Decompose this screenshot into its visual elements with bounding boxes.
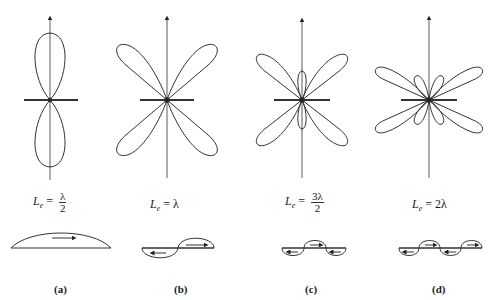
equals-sign: =	[163, 197, 170, 211]
length-value: 2λ	[435, 197, 447, 211]
pattern-c	[256, 20, 347, 178]
denominator: 2	[315, 203, 321, 214]
caption-a: (a)	[54, 283, 67, 295]
radiation-pattern-figure	[0, 0, 497, 300]
length-value: λ	[173, 197, 179, 211]
caption-c: (c)	[305, 283, 317, 295]
label-subscript: e	[419, 204, 423, 213]
label-L: L	[285, 194, 292, 208]
fraction: λ2	[59, 191, 66, 214]
current-d	[399, 241, 482, 256]
length-label-d: Le = 2λ	[412, 197, 447, 213]
pattern-a	[24, 18, 78, 180]
length-label-c: Le = 3λ2	[285, 191, 324, 214]
current-b	[142, 238, 214, 258]
label-L: L	[33, 194, 40, 208]
pattern-d	[375, 18, 482, 178]
label-subscript: e	[292, 201, 296, 210]
equals-sign: =	[298, 194, 305, 208]
length-label-a: Le = λ2	[33, 191, 66, 214]
pattern-b	[117, 18, 218, 178]
caption-b: (b)	[174, 283, 187, 295]
label-L: L	[412, 197, 419, 211]
fraction: 3λ2	[311, 191, 324, 214]
label-L: L	[150, 197, 157, 211]
length-label-b: Le = λ	[150, 197, 179, 213]
denominator: 2	[60, 203, 66, 214]
label-subscript: e	[157, 204, 161, 213]
current-a	[11, 233, 111, 248]
current-c	[282, 241, 346, 256]
equals-sign: =	[46, 194, 53, 208]
equals-sign: =	[425, 197, 432, 211]
caption-d: (d)	[432, 283, 445, 295]
label-subscript: e	[40, 201, 44, 210]
